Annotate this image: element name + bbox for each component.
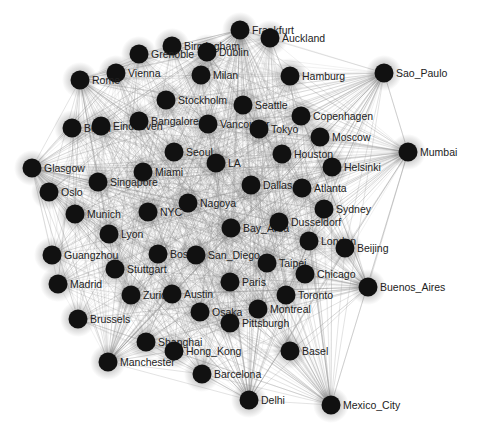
node-circle[interactable] (122, 286, 141, 305)
node-circle[interactable] (322, 396, 341, 415)
node-label: Hamburg (302, 70, 345, 82)
node-circle[interactable] (43, 246, 62, 265)
node-circle[interactable] (296, 265, 315, 284)
node-circle[interactable] (192, 66, 211, 85)
node-circle[interactable] (130, 45, 149, 64)
node-circle[interactable] (240, 391, 259, 410)
node-circle[interactable] (63, 119, 82, 138)
node-madrid[interactable]: Madrid (49, 275, 103, 294)
node-circle[interactable] (187, 246, 206, 265)
node-circle[interactable] (399, 143, 418, 162)
node-label: Stuttgart (127, 263, 167, 275)
node-label: Miami (155, 166, 183, 178)
node-label: Montreal (270, 303, 311, 315)
node-manchester[interactable]: Manchester (99, 353, 176, 372)
node-circle[interactable] (222, 219, 241, 238)
node-label: Bangalore (151, 115, 199, 127)
node-circle[interactable] (157, 91, 176, 110)
node-label: Houston (294, 148, 333, 160)
node-circle[interactable] (198, 43, 217, 62)
node-montreal[interactable]: Montreal (249, 300, 311, 319)
node-label: Toronto (298, 289, 333, 301)
node-circle[interactable] (258, 254, 277, 273)
node-label: Manchester (120, 356, 175, 368)
node-circle[interactable] (191, 303, 210, 322)
network-graph: FrankfurtAucklandBirminghamDublinGrenobl… (0, 0, 478, 434)
node-circle[interactable] (234, 96, 253, 115)
node-circle[interactable] (106, 260, 125, 279)
node-circle[interactable] (149, 245, 168, 264)
node-circle[interactable] (139, 203, 158, 222)
node-pittsburgh[interactable]: Pittsburgh (221, 314, 290, 333)
node-label: NYC (160, 206, 183, 218)
node-circle[interactable] (40, 183, 59, 202)
node-label: Austin (184, 288, 213, 300)
node-circle[interactable] (92, 117, 111, 136)
node-label: Stockholm (178, 94, 227, 106)
node-label: Madrid (70, 278, 102, 290)
node-label: Barcelona (214, 368, 261, 380)
node-label: Oslo (61, 186, 83, 198)
node-circle[interactable] (250, 120, 269, 139)
node-auckland[interactable]: Auckland (261, 29, 326, 48)
node-label: Hong_Kong (186, 345, 242, 357)
node-label: Dublin (219, 46, 249, 58)
node-label: Dallas (263, 179, 292, 191)
node-circle[interactable] (359, 278, 378, 297)
node-circle[interactable] (281, 342, 300, 361)
node-circle[interactable] (69, 310, 88, 329)
node-label: Vienna (128, 67, 161, 79)
node-circle[interactable] (199, 115, 218, 134)
node-beijing[interactable]: Beijing (336, 239, 389, 258)
node-circle[interactable] (99, 353, 118, 372)
node-circle[interactable] (221, 314, 240, 333)
node-mumbai[interactable]: Mumbai (399, 143, 458, 162)
node-label: Seattle (255, 99, 288, 111)
node-circle[interactable] (311, 128, 330, 147)
node-circle[interactable] (49, 275, 68, 294)
node-toronto[interactable]: Toronto (277, 286, 334, 305)
node-circle[interactable] (249, 300, 268, 319)
node-buenos-aires[interactable]: Buenos_Aires (359, 278, 446, 297)
node-circle[interactable] (207, 154, 226, 173)
node-circle[interactable] (281, 67, 300, 86)
node-circle[interactable] (221, 273, 240, 292)
node-label: Nagoya (200, 197, 236, 209)
node-circle[interactable] (375, 64, 394, 83)
node-sao-paulo[interactable]: Sao_Paulo (375, 64, 448, 83)
node-label: Lyon (121, 228, 144, 240)
node-circle[interactable] (277, 286, 296, 305)
node-label: Glasgow (44, 162, 85, 174)
node-circle[interactable] (71, 71, 90, 90)
node-circle[interactable] (293, 179, 312, 198)
node-label: San_Diego (208, 249, 260, 261)
node-circle[interactable] (165, 143, 184, 162)
node-circle[interactable] (163, 285, 182, 304)
node-label: Pittsburgh (242, 317, 289, 329)
node-label: Helsinki (344, 161, 381, 173)
node-circle[interactable] (193, 365, 212, 384)
node-label: Mumbai (420, 146, 457, 158)
node-mexico-city[interactable]: Mexico_City (322, 396, 401, 415)
node-circle[interactable] (89, 173, 108, 192)
node-label: Auckland (282, 32, 325, 44)
node-label: Copenhagen (313, 110, 373, 122)
node-circle[interactable] (323, 158, 342, 177)
node-label: Chicago (317, 268, 356, 280)
node-circle[interactable] (66, 205, 85, 224)
node-circle[interactable] (137, 333, 156, 352)
node-label: Atlanta (314, 182, 347, 194)
node-circle[interactable] (336, 239, 355, 258)
node-circle[interactable] (231, 21, 250, 40)
node-circle[interactable] (300, 232, 319, 251)
node-circle[interactable] (100, 225, 119, 244)
node-circle[interactable] (23, 159, 42, 178)
node-label: Dusseldorf (291, 216, 341, 228)
node-circle[interactable] (270, 213, 289, 232)
node-circle[interactable] (130, 112, 149, 131)
node-label: Delhi (261, 394, 285, 406)
node-circle[interactable] (273, 145, 292, 164)
node-label: Beijing (357, 242, 389, 254)
node-circle[interactable] (261, 29, 280, 48)
node-circle[interactable] (242, 176, 261, 195)
